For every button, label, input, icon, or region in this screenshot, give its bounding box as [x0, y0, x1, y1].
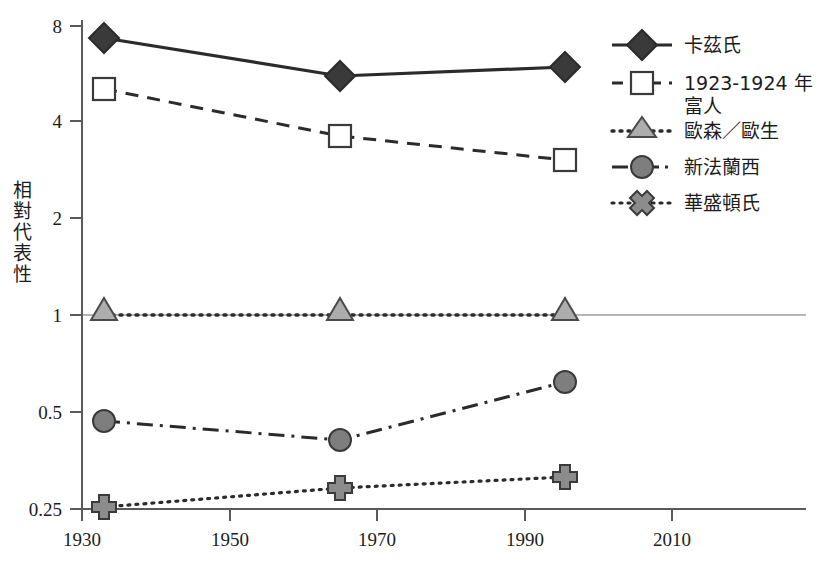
x-tick-label-1990: 1990 [506, 529, 544, 550]
legend-item-katz[interactable] [608, 33, 808, 57]
series-rich-marker-1933 [93, 78, 115, 100]
series-new-france-marker-1933 [93, 410, 115, 432]
series-new-france-marker-1965 [329, 429, 351, 451]
y-tick-label-2: 2 [53, 208, 63, 229]
x-tick-label-1930: 1930 [63, 529, 101, 550]
y-axis-title-char-2: 代 [10, 222, 34, 243]
y-axis-title-char-4: 性 [10, 264, 34, 285]
legend-item-rich[interactable] [608, 71, 808, 117]
y-axis-title-char-3: 表 [10, 243, 34, 264]
chart-figure: 8 4 2 1 0.5 0.25 1930 1950 1970 1990 201… [0, 0, 828, 575]
x-tick-label-1970: 1970 [358, 529, 396, 550]
legend-item-ohsen[interactable] [608, 119, 808, 143]
y-tick-label-1: 1 [53, 305, 63, 326]
y-tick-label-4: 4 [53, 111, 63, 132]
y-tick-label-0.25: 0.25 [29, 499, 62, 520]
y-axis-title-char-0: 相 [10, 180, 34, 201]
y-axis-title-char-1: 對 [10, 201, 34, 222]
series-new-france-marker-1993 [554, 371, 576, 393]
series-rich-marker-1965 [329, 125, 351, 147]
y-axis-title: 相 對 代 表 性 [10, 180, 34, 285]
legend-item-washington[interactable] [608, 191, 808, 215]
y-tick-label-0.5: 0.5 [38, 402, 62, 423]
x-tick-label-2010: 2010 [653, 529, 691, 550]
x-tick-label-1950: 1950 [211, 529, 249, 550]
y-tick-label-8: 8 [53, 16, 63, 37]
series-rich-marker-1993 [554, 149, 576, 171]
legend-item-new-france[interactable] [608, 155, 808, 179]
